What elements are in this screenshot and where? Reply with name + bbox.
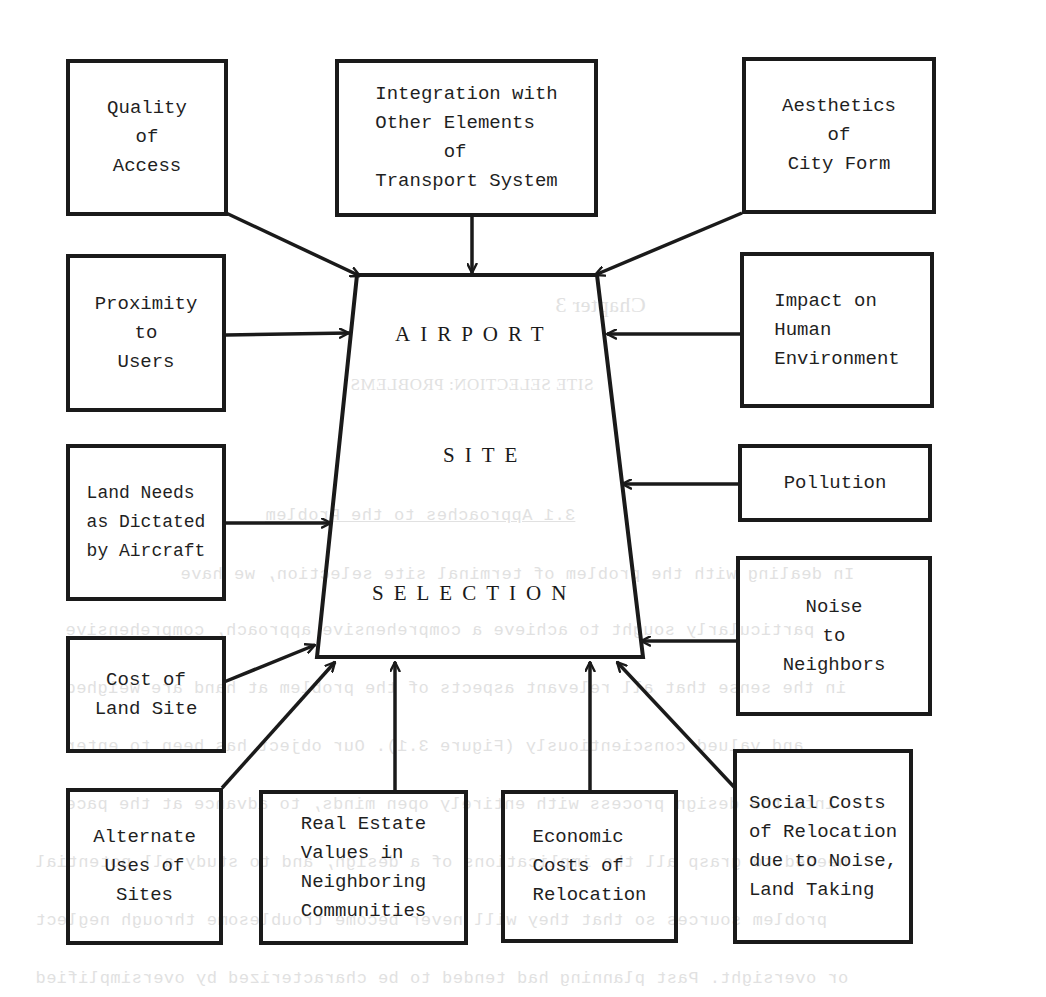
- factor-label: Social Costs of Relocation due to Noise,…: [749, 789, 897, 905]
- factor-label: Pollution: [784, 469, 887, 498]
- arrow-cost-of-land-site: [224, 645, 315, 682]
- factor-integration-transport: Integration with Other Elements of Trans…: [335, 59, 598, 217]
- factor-pollution: Pollution: [738, 444, 932, 522]
- factor-aesthetics-city-form: Aesthetics of City Form: [742, 57, 936, 214]
- arrow-proximity-to-users: [226, 333, 349, 335]
- center-word-selection: SELECTION: [372, 581, 576, 606]
- factor-economic-costs-relocation: Economic Costs of Relocation: [501, 790, 678, 943]
- factor-label: Proximity to Users: [95, 290, 198, 377]
- factor-noise-to-neighbors: Noise to Neighbors: [736, 556, 932, 716]
- factor-land-needs-aircraft: Land Needs as Dictated by Aircraft: [66, 444, 226, 601]
- factor-label: Land Needs as Dictated by Aircraft: [87, 479, 206, 566]
- center-word-site: SITE: [443, 443, 527, 468]
- center-word-airport: AIRPORT: [395, 322, 554, 347]
- factor-label: Alternate Uses of Sites: [93, 823, 196, 910]
- factor-label: Real Estate Values in Neighboring Commun…: [301, 810, 426, 926]
- factor-quality-of-access: Quality of Access: [66, 59, 228, 216]
- arrow-aesthetics-city-form: [595, 213, 742, 275]
- arrow-alternate-uses: [222, 662, 335, 788]
- factor-label: Quality of Access: [107, 94, 187, 181]
- factor-alternate-uses-of-sites: Alternate Uses of Sites: [66, 788, 223, 945]
- factor-label: Impact on Human Environment: [774, 287, 899, 374]
- arrow-social-costs: [617, 662, 735, 788]
- factor-impact-human-environment: Impact on Human Environment: [740, 252, 934, 408]
- arrow-quality-of-access: [226, 213, 360, 276]
- factor-cost-of-land-site: Cost of Land Site: [66, 636, 226, 753]
- factor-social-costs-relocation: Social Costs of Relocation due to Noise,…: [733, 749, 913, 944]
- factor-label: Economic Costs of Relocation: [532, 823, 646, 910]
- factor-real-estate-values: Real Estate Values in Neighboring Commun…: [259, 790, 468, 945]
- factor-label: Aesthetics of City Form: [782, 92, 896, 179]
- factor-label: Cost of Land Site: [95, 666, 198, 724]
- factor-label: Integration with Other Elements of Trans…: [375, 80, 557, 196]
- factor-label: Noise to Neighbors: [783, 593, 886, 680]
- factor-proximity-to-users: Proximity to Users: [66, 254, 226, 412]
